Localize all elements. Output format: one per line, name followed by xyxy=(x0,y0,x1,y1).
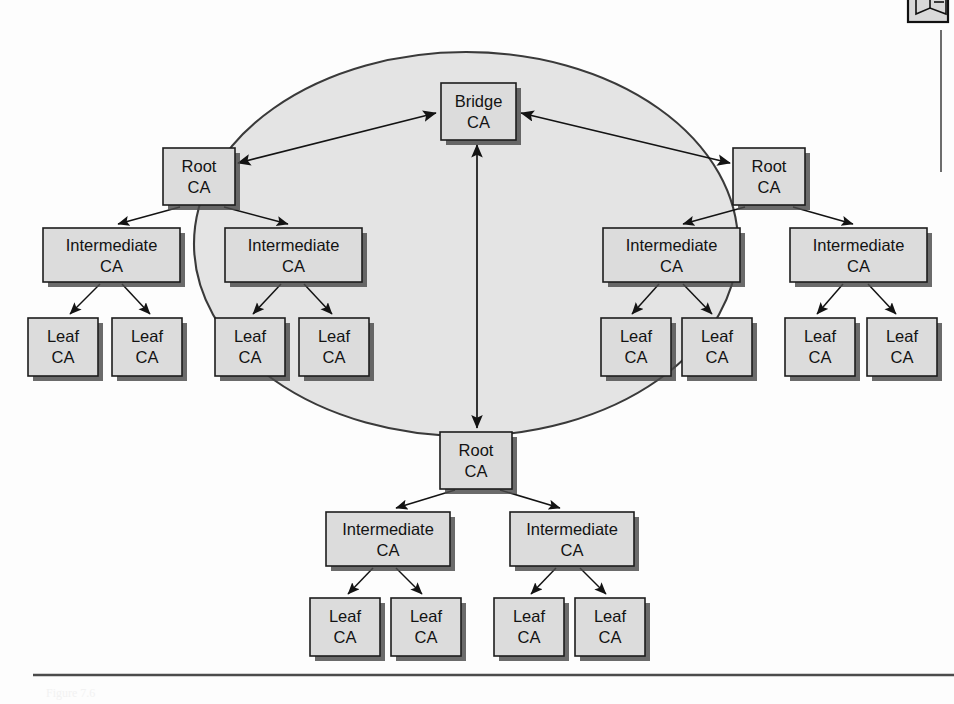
node-intermediate-ca-4[interactable]: Intermediate CA xyxy=(790,228,932,287)
figure-caption-ghost: Figure 7.6 xyxy=(46,686,95,700)
node-label-line1: Intermediate xyxy=(626,236,718,254)
node-label-line2: CA xyxy=(100,257,123,275)
node-label-line1: Leaf xyxy=(620,327,653,345)
node-label-line2: CA xyxy=(465,462,488,480)
node-label-line1: Intermediate xyxy=(66,236,158,254)
node-label-line1: Leaf xyxy=(234,327,267,345)
node-label-line2: CA xyxy=(467,113,490,131)
node-label-line1: Leaf xyxy=(47,327,80,345)
node-label-line1: Leaf xyxy=(131,327,164,345)
node-label-line2: CA xyxy=(52,348,75,366)
node-label-line2: CA xyxy=(599,628,622,646)
edge-int4-leaf8 xyxy=(868,284,896,314)
node-leaf-ca-5[interactable]: Leaf CA xyxy=(601,318,676,381)
node-label-line2: CA xyxy=(758,178,781,196)
node-label-line1: Leaf xyxy=(701,327,734,345)
node-label-line2: CA xyxy=(809,348,832,366)
figure-page: Bridge CA Root CA Root CA xyxy=(0,0,954,704)
node-label-line1: Intermediate xyxy=(342,520,434,538)
node-label-line2: CA xyxy=(323,348,346,366)
node-label-line2: CA xyxy=(136,348,159,366)
node-root-ca-bottom[interactable]: Root CA xyxy=(440,432,517,494)
node-label-line1: Bridge xyxy=(455,92,503,110)
node-label-line2: CA xyxy=(334,628,357,646)
node-label-line1: Leaf xyxy=(318,327,351,345)
node-label-line1: Leaf xyxy=(513,607,546,625)
edge-int6-leaf11 xyxy=(531,568,556,594)
node-leaf-ca-10[interactable]: Leaf CA xyxy=(391,598,466,661)
node-label-line1: Intermediate xyxy=(526,520,618,538)
node-bridge-ca[interactable]: Bridge CA xyxy=(441,83,521,145)
note-book-icon[interactable] xyxy=(908,0,948,22)
node-root-ca-left[interactable]: Root CA xyxy=(163,148,240,210)
node-label-line2: CA xyxy=(891,348,914,366)
node-label-line2: CA xyxy=(188,178,211,196)
node-label-line1: Leaf xyxy=(410,607,443,625)
node-intermediate-ca-3[interactable]: Intermediate CA xyxy=(603,228,745,287)
node-label-line1: Leaf xyxy=(886,327,919,345)
node-label-line2: CA xyxy=(847,257,870,275)
node-leaf-ca-6[interactable]: Leaf CA xyxy=(682,318,757,381)
node-leaf-ca-9[interactable]: Leaf CA xyxy=(310,598,385,661)
node-label-line1: Intermediate xyxy=(813,236,905,254)
node-leaf-ca-11[interactable]: Leaf CA xyxy=(494,598,569,661)
node-intermediate-ca-5[interactable]: Intermediate CA xyxy=(326,512,455,571)
node-label-line2: CA xyxy=(660,257,683,275)
bridge-ca-diagram: Bridge CA Root CA Root CA xyxy=(0,0,954,704)
node-leaf-ca-4[interactable]: Leaf CA xyxy=(299,318,374,381)
edge-int1-leaf2 xyxy=(122,284,150,314)
node-root-ca-right[interactable]: Root CA xyxy=(733,148,810,210)
edge-int5-leaf10 xyxy=(396,568,422,594)
node-intermediate-ca-6[interactable]: Intermediate CA xyxy=(510,512,639,571)
node-label-line1: Root xyxy=(459,441,494,459)
node-label-line2: CA xyxy=(706,348,729,366)
node-label-line2: CA xyxy=(239,348,262,366)
node-intermediate-ca-1[interactable]: Intermediate CA xyxy=(43,228,185,287)
node-label-line2: CA xyxy=(282,257,305,275)
node-intermediate-ca-2[interactable]: Intermediate CA xyxy=(225,228,367,287)
node-leaf-ca-7[interactable]: Leaf CA xyxy=(785,318,860,381)
node-leaf-ca-8[interactable]: Leaf CA xyxy=(867,318,942,381)
node-label-line1: Leaf xyxy=(804,327,837,345)
node-leaf-ca-3[interactable]: Leaf CA xyxy=(215,318,290,381)
node-label-line2: CA xyxy=(625,348,648,366)
edge-int6-leaf12 xyxy=(580,568,606,594)
node-label-line1: Intermediate xyxy=(248,236,340,254)
node-label-line2: CA xyxy=(415,628,438,646)
node-leaf-ca-2[interactable]: Leaf CA xyxy=(112,318,187,381)
node-label-line2: CA xyxy=(561,541,584,559)
node-label-line2: CA xyxy=(518,628,541,646)
node-label-line1: Leaf xyxy=(329,607,362,625)
edge-int4-leaf7 xyxy=(817,284,843,314)
node-leaf-ca-12[interactable]: Leaf CA xyxy=(575,598,650,661)
node-label-line1: Root xyxy=(182,157,217,175)
node-label-line1: Leaf xyxy=(594,607,627,625)
node-label-line1: Root xyxy=(752,157,787,175)
edge-int5-leaf9 xyxy=(348,568,373,594)
edge-int1-leaf1 xyxy=(70,284,100,314)
node-label-line2: CA xyxy=(377,541,400,559)
node-leaf-ca-1[interactable]: Leaf CA xyxy=(28,318,103,381)
